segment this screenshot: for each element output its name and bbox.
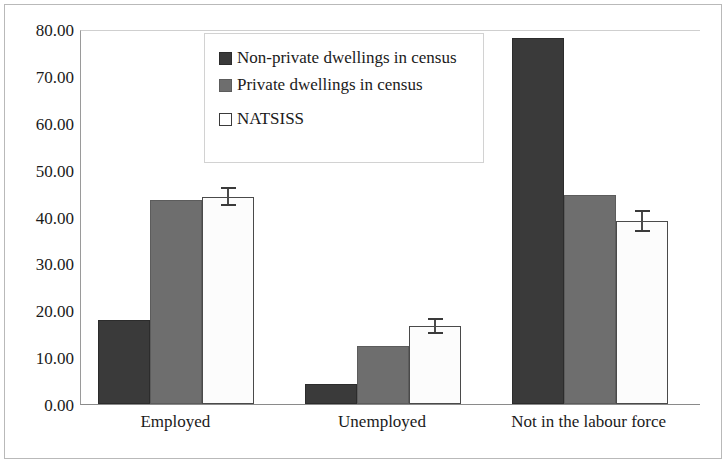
white-outline-square-icon bbox=[219, 113, 232, 126]
bar bbox=[512, 38, 564, 404]
y-axis-tick-label: 30.00 bbox=[2, 256, 74, 273]
bar-chart-figure: 0.0010.0020.0030.0040.0050.0060.0070.008… bbox=[0, 0, 726, 463]
error-bar-cap-top bbox=[635, 210, 650, 212]
y-axis-tick-label: 0.00 bbox=[2, 397, 74, 414]
error-bar-cap-bottom bbox=[635, 230, 650, 232]
legend-item-label: Non-private dwellings in census bbox=[237, 48, 457, 68]
y-axis-tick-label: 40.00 bbox=[2, 209, 74, 226]
x-axis-tick-label: Not in the labour force bbox=[511, 412, 666, 432]
y-axis-tick-label: 70.00 bbox=[2, 68, 74, 85]
gray-filled-square-icon bbox=[219, 79, 232, 92]
error-bar-cap-top bbox=[428, 318, 443, 320]
legend-item-label: Private dwellings in census bbox=[237, 75, 423, 95]
legend-item: Private dwellings in census bbox=[219, 75, 475, 95]
y-axis-tick-label: 10.00 bbox=[2, 350, 74, 367]
bar bbox=[616, 221, 668, 404]
bar-group bbox=[512, 29, 668, 404]
bar bbox=[409, 326, 461, 404]
x-axis: EmployedUnemployedNot in the labour forc… bbox=[80, 412, 700, 452]
bar bbox=[150, 200, 202, 404]
legend-item-label: NATSISS bbox=[237, 109, 304, 129]
y-axis-tick-label: 60.00 bbox=[2, 115, 74, 132]
bar bbox=[357, 346, 409, 404]
y-axis-tick-label: 80.00 bbox=[2, 22, 74, 39]
y-axis: 0.0010.0020.0030.0040.0050.0060.0070.008… bbox=[0, 30, 74, 405]
legend-item: Non-private dwellings in census bbox=[219, 48, 475, 68]
bar bbox=[564, 195, 616, 404]
bar bbox=[202, 197, 254, 404]
x-axis-tick-label: Employed bbox=[140, 412, 210, 432]
legend: Non-private dwellings in censusPrivate d… bbox=[204, 33, 484, 163]
bar bbox=[305, 384, 357, 404]
x-axis-tick-label: Unemployed bbox=[338, 412, 426, 432]
legend-item: NATSISS bbox=[219, 109, 475, 129]
bar bbox=[98, 320, 150, 404]
dark-filled-square-icon bbox=[219, 52, 232, 65]
error-bar-stem bbox=[641, 210, 643, 233]
y-axis-tick-label: 20.00 bbox=[2, 303, 74, 320]
error-bar-cap-top bbox=[221, 187, 236, 189]
error-bar-cap-bottom bbox=[221, 204, 236, 206]
error-bar-cap-bottom bbox=[428, 332, 443, 334]
y-axis-tick-label: 50.00 bbox=[2, 162, 74, 179]
